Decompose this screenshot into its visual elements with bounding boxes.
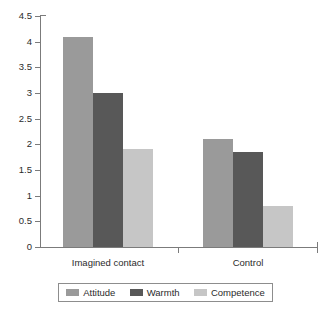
bar [123,149,153,247]
y-tick-label: 3 [0,88,32,98]
y-tick-label: 1 [0,191,32,201]
legend-swatch-icon [130,289,143,296]
bar [203,139,233,247]
y-tick-label: 2.5 [0,114,32,124]
legend-label: Attitude [83,288,115,298]
legend-label: Competence [211,288,265,298]
bar [233,152,263,247]
legend-entry: Competence [194,288,265,298]
legend-swatch-icon [194,289,207,296]
x-axis-label: Imagined contact [48,258,168,268]
y-tick-mark [35,119,40,120]
y-tick-mark [35,67,40,68]
x-axis-label: Control [188,258,308,268]
bar [263,206,293,247]
y-tick-mark [35,196,40,197]
x-axis-line [41,247,318,248]
chart-legend: AttitudeWarmthCompetence [58,283,273,302]
y-tick-label: 1.5 [0,165,32,175]
legend-entry: Warmth [130,288,180,298]
y-tick-mark [35,144,40,145]
y-tick-mark [35,93,40,94]
legend-swatch-icon [66,289,79,296]
y-tick-label: 3.5 [0,62,32,72]
legend-entry: Attitude [66,288,115,298]
y-tick-label: 4 [0,37,32,47]
bar [93,93,123,247]
y-tick-mark [35,16,40,17]
y-tick-mark [35,42,40,43]
y-tick-label: 4.5 [0,11,32,21]
y-tick-label: 0 [0,242,32,252]
y-tick-mark [35,221,40,222]
x-tick-mark [178,247,179,253]
y-tick-label: 0.5 [0,216,32,226]
y-tick-label: 2 [0,139,32,149]
bar-chart: 00.511.522.533.544.5 Imagined contactCon… [0,0,331,314]
x-tick-mark [317,247,318,253]
legend-label: Warmth [147,288,180,298]
bar [63,37,93,247]
y-tick-mark [35,170,40,171]
plot-area [41,16,318,247]
y-tick-mark [35,247,40,248]
